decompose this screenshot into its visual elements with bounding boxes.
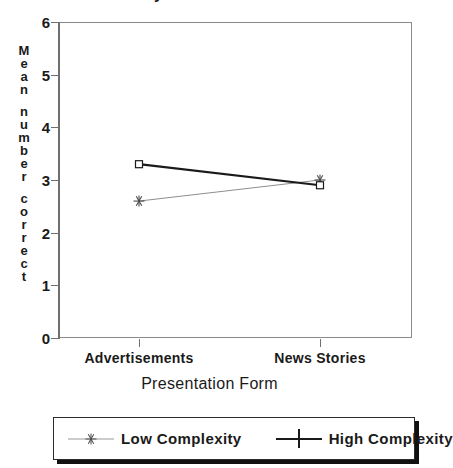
y-axis-tick xyxy=(51,338,59,339)
y-axis-tick xyxy=(51,75,59,76)
x-axis-tick-label: Advertisements xyxy=(84,350,193,366)
legend-label-low-complexity: Low Complexity xyxy=(121,430,242,447)
plot-area xyxy=(58,22,412,338)
y-axis-title-char: n xyxy=(20,83,28,96)
x-axis-tick xyxy=(139,339,140,347)
asterisk-marker-icon xyxy=(68,431,114,447)
y-axis-title-char: t xyxy=(22,270,26,283)
y-axis-tick-label: 6 xyxy=(10,14,50,31)
x-axis-tick-label: News Stories xyxy=(274,350,366,366)
legend-item-high-complexity[interactable]: High Complexity xyxy=(276,430,453,447)
y-axis-title-char: r xyxy=(21,170,26,183)
y-axis-tick xyxy=(51,180,59,181)
y-axis-tick xyxy=(51,285,59,286)
legend-label-high-complexity: High Complexity xyxy=(329,430,453,447)
square-marker-icon xyxy=(276,431,322,447)
y-axis-tick xyxy=(51,127,59,128)
x-axis-tick xyxy=(320,339,321,347)
y-axis-tick xyxy=(51,22,59,23)
y-axis-tick-label: 0 xyxy=(10,330,50,347)
x-axis-title: Presentation Form xyxy=(0,375,419,393)
chart-title: Dynamic Printed xyxy=(0,0,419,3)
chart-legend: Low Complexity High Complexity xyxy=(53,417,415,460)
y-axis-tick xyxy=(51,233,59,234)
legend-item-low-complexity[interactable]: Low Complexity xyxy=(68,430,242,447)
y-axis-title: Meannumbercorrect xyxy=(16,44,32,283)
